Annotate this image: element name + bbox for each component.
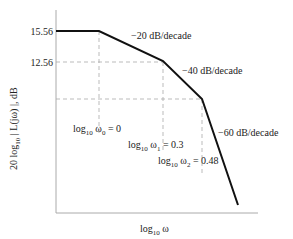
slope-60-label: −60 dB/decade — [218, 127, 279, 138]
w2-label: log10 ω2 = 0.48 — [158, 155, 219, 169]
slope-40-label: −40 dB/decade — [182, 65, 243, 76]
y-axis-label: 20 log10 | L(jω) |, dB — [8, 87, 22, 170]
guide-lines — [56, 31, 202, 174]
magnitude-curve — [56, 31, 238, 205]
slope-20-label: −20 dB/decade — [131, 30, 192, 41]
w1-label: log10 ω1 = 0.3 — [128, 139, 184, 153]
ytick-15-56: 15.56 — [31, 26, 54, 37]
ytick-12-56: 12.56 — [31, 57, 54, 68]
w0-label: log10 ω0 = 0 — [73, 123, 121, 137]
x-axis-label: log10 ω — [140, 223, 169, 237]
bode-plot: 15.56 12.56 −20 dB/decade −40 dB/decade … — [0, 0, 293, 239]
